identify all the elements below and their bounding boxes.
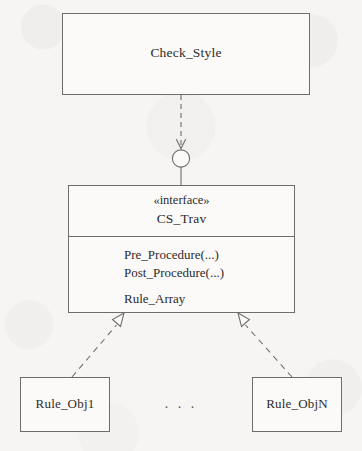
realization-line-rule-obj1 bbox=[72, 325, 117, 377]
realization-line-rule-objn bbox=[246, 325, 293, 377]
class-name-rule-objn: Rule_ObjN bbox=[253, 396, 341, 412]
ellipsis-label: . . . bbox=[156, 396, 206, 412]
interface-name-label: CS_Trav bbox=[69, 211, 294, 227]
class-box-rule-objn[interactable]: Rule_ObjN bbox=[252, 377, 342, 432]
interface-member-post-procedure: Post_Procedure(...) bbox=[124, 264, 294, 282]
class-name-check-style: Check_Style bbox=[63, 45, 309, 61]
interface-socket-circle-icon bbox=[172, 150, 189, 167]
interface-stereotype-label: «interface» bbox=[69, 193, 294, 208]
interface-header-compartment: «interface» CS_Trav bbox=[69, 186, 294, 237]
class-box-rule-obj1[interactable]: Rule_Obj1 bbox=[20, 377, 110, 432]
interface-member-pre-procedure: Pre_Procedure(...) bbox=[124, 246, 294, 264]
hollow-triangle-arrowhead-icon-rule-objn bbox=[238, 313, 250, 327]
uml-class-diagram: socket : dashed line with thin open arro… bbox=[0, 0, 362, 451]
members-separator bbox=[124, 282, 294, 290]
hollow-triangle-arrowhead-icon-rule-obj1 bbox=[113, 313, 125, 327]
class-name-rule-obj1: Rule_Obj1 bbox=[21, 396, 109, 412]
interface-box-cs-trav[interactable]: «interface» CS_Trav Pre_Procedure(...) P… bbox=[68, 185, 295, 313]
class-box-check-style[interactable]: Check_Style bbox=[62, 13, 310, 95]
interface-members-compartment: Pre_Procedure(...) Post_Procedure(...) R… bbox=[69, 237, 294, 314]
interface-member-rule-array: Rule_Array bbox=[124, 290, 294, 308]
